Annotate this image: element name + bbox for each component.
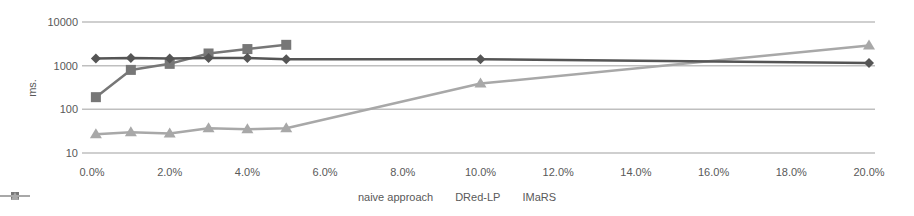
square-marker-icon — [91, 92, 101, 102]
diamond-marker-icon — [126, 53, 136, 63]
x-tick-label: 18.0% — [776, 166, 807, 178]
plot-area: 101001000100000.0%2.0%4.0%6.0%8.0%10.0%1… — [0, 0, 914, 216]
legend-item-dred-lp: DRed-LP — [455, 191, 500, 203]
legend-label: DRed-LP — [455, 191, 500, 203]
y-tick-label: 1000 — [54, 60, 78, 72]
x-tick-label: 4.0% — [235, 166, 260, 178]
x-tick-label: 20.0% — [853, 166, 884, 178]
chart: 101001000100000.0%2.0%4.0%6.0%8.0%10.0%1… — [0, 0, 914, 216]
diamond-marker-icon — [281, 54, 291, 64]
y-tick-label: 10 — [66, 147, 78, 159]
diamond-marker-icon — [91, 54, 101, 64]
x-tick-label: 8.0% — [390, 166, 415, 178]
diamond-marker-icon — [476, 54, 486, 64]
x-tick-label: 14.0% — [620, 166, 651, 178]
triangle-marker-icon — [863, 39, 875, 49]
y-tick-label: 100 — [60, 103, 78, 115]
y-tick-label: 10000 — [47, 16, 78, 28]
series-dred-lp — [91, 40, 291, 102]
x-tick-label: 6.0% — [313, 166, 338, 178]
diamond-marker-icon — [864, 58, 874, 68]
x-tick-label: 0.0% — [79, 166, 104, 178]
x-tick-label: 16.0% — [698, 166, 729, 178]
triangle-marker-icon — [0, 191, 30, 201]
legend-label: naive approach — [358, 191, 433, 203]
diamond-marker-icon — [242, 53, 252, 63]
legend: naive approach DRed-LP IMaRS — [0, 191, 914, 203]
legend-item-imars: IMaRS — [522, 191, 556, 203]
square-marker-icon — [242, 44, 252, 54]
x-tick-label: 10.0% — [465, 166, 496, 178]
x-tick-label: 2.0% — [157, 166, 182, 178]
legend-label: IMaRS — [522, 191, 556, 203]
square-marker-icon — [126, 65, 136, 75]
x-tick-label: 12.0% — [543, 166, 574, 178]
square-marker-icon — [281, 40, 291, 50]
y-axis-label: ms. — [26, 79, 38, 97]
legend-item-naive-approach: naive approach — [358, 191, 433, 203]
